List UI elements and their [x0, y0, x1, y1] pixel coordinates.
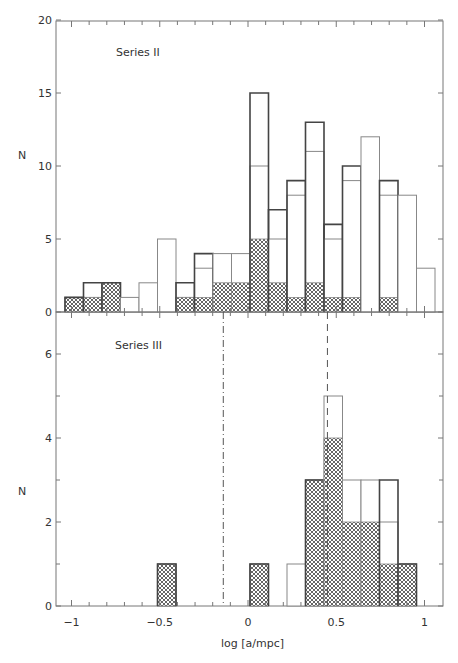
- histogram-bar: [343, 166, 362, 312]
- histogram-bar: [102, 283, 121, 312]
- histogram-bar: [121, 297, 140, 312]
- x-tick-label: −0.5: [146, 616, 173, 629]
- y-tick-label: 20: [38, 14, 52, 27]
- histogram-bar: [213, 254, 232, 312]
- bottom-y-axis-label: N: [18, 485, 26, 498]
- top-y-axis-label: N: [18, 149, 26, 162]
- x-tick-label: 1: [421, 616, 428, 629]
- histogram-bar: [269, 210, 288, 312]
- histogram-bar: [324, 396, 343, 606]
- y-tick-label: 2: [45, 516, 52, 529]
- x-tick-label: −1: [63, 616, 79, 629]
- y-tick-label: 0: [45, 306, 52, 319]
- y-tick-label: 5: [45, 233, 52, 246]
- histogram-bar: [139, 283, 158, 312]
- histogram-bar: [398, 564, 417, 606]
- histogram-bar: [306, 122, 325, 312]
- histogram-bar: [324, 224, 343, 312]
- x-tick-label: 0: [245, 616, 252, 629]
- histogram-bar: [306, 480, 325, 606]
- histogram-bar: [361, 480, 380, 606]
- histogram-bar: [250, 564, 269, 606]
- histogram-figure: 05101520 0246−1−0.500.51 N N Series II S…: [0, 0, 458, 663]
- top-panel-series-ii: 05101520: [38, 14, 443, 319]
- y-tick-label: 10: [38, 160, 52, 173]
- histogram-bar: [84, 283, 103, 312]
- histogram-bar: [361, 137, 380, 312]
- top-series-label: Series II: [116, 46, 160, 59]
- bottom-series-label: Series III: [115, 339, 162, 352]
- histogram-bar: [65, 297, 84, 312]
- histogram-bar: [232, 254, 251, 312]
- histogram-bar: [380, 181, 399, 312]
- histogram-bar: [250, 93, 269, 312]
- bottom-panel-series-iii: 0246−1−0.500.51: [45, 312, 443, 629]
- y-tick-label: 6: [45, 348, 52, 361]
- histogram-bar: [195, 254, 214, 312]
- y-tick-label: 4: [45, 432, 52, 445]
- histogram-bar: [343, 480, 362, 606]
- histogram-bar: [158, 239, 177, 312]
- histogram-bar: [287, 564, 306, 606]
- histogram-bar: [398, 195, 417, 312]
- histogram-bar: [380, 480, 399, 606]
- y-tick-label: 0: [45, 600, 52, 613]
- histogram-bar: [287, 181, 306, 312]
- histogram-bar: [417, 268, 436, 312]
- histogram-bar: [176, 283, 195, 312]
- y-tick-label: 15: [38, 87, 52, 100]
- x-tick-label: 0.5: [328, 616, 346, 629]
- x-axis-label: log [a/mpc]: [221, 637, 284, 650]
- histogram-bar: [158, 564, 177, 606]
